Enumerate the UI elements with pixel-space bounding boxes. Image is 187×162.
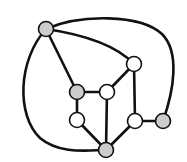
node-b-white xyxy=(127,57,142,72)
edge-b-f xyxy=(134,64,135,121)
edge-a-h xyxy=(23,29,106,151)
graph-diagram xyxy=(0,0,187,162)
edge-d-h xyxy=(106,92,107,150)
node-d-white xyxy=(100,85,115,100)
edge-layer xyxy=(23,18,173,150)
node-a-gray xyxy=(39,22,54,37)
node-g-gray xyxy=(156,114,171,129)
node-c-gray xyxy=(70,85,85,100)
node-h-gray xyxy=(99,143,114,158)
node-e-white xyxy=(70,113,85,128)
node-layer xyxy=(39,22,171,158)
node-f-white xyxy=(128,114,143,129)
edge-a-c xyxy=(46,29,77,92)
